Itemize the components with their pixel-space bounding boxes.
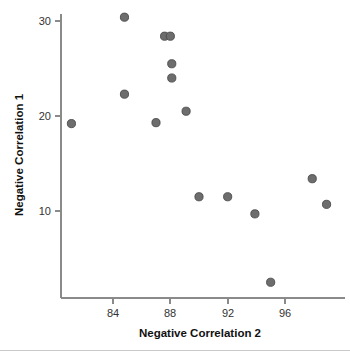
y-axis-title: Negative Correlation 1 — [13, 93, 25, 216]
scatter-plot-canvas: 30 20 10 84 88 92 96 Negative Correlatio… — [0, 0, 350, 354]
scatter-plot-figure: 30 20 10 84 88 92 96 Negative Correlatio… — [0, 0, 350, 354]
x-tick-label: 92 — [222, 307, 234, 319]
data-point — [120, 13, 128, 21]
x-axis-ticks: 84 88 92 96 — [107, 298, 291, 319]
data-point — [251, 210, 259, 218]
data-point — [182, 107, 190, 115]
data-point — [195, 193, 203, 201]
x-tick-label: 84 — [107, 307, 119, 319]
x-tick-label: 96 — [279, 307, 291, 319]
data-point — [166, 32, 174, 40]
y-axis-ticks: 30 20 10 — [39, 15, 61, 217]
data-point — [308, 175, 316, 183]
data-point — [152, 119, 160, 127]
data-point — [322, 200, 330, 208]
data-point — [168, 60, 176, 68]
x-axis-title: Negative Correlation 2 — [139, 327, 261, 339]
y-tick-label: 30 — [39, 15, 51, 27]
data-point — [224, 193, 232, 201]
data-point — [168, 74, 176, 82]
y-tick-label: 10 — [39, 205, 51, 217]
data-point — [67, 120, 75, 128]
data-points-layer — [67, 13, 330, 286]
data-point — [267, 278, 275, 286]
y-tick-label: 20 — [39, 110, 51, 122]
x-tick-label: 88 — [164, 307, 176, 319]
data-point — [120, 90, 128, 98]
